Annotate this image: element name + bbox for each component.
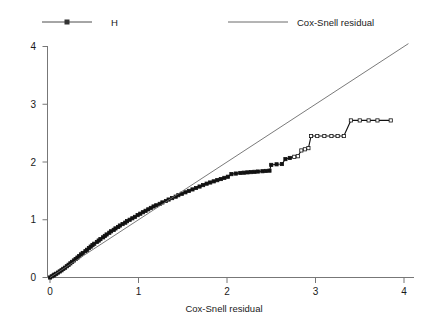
legend-label-reference: Cox-Snell residual [297, 17, 374, 28]
data-point-marker [309, 134, 312, 137]
y-tick-label-2: 2 [30, 157, 36, 168]
data-point-marker [293, 155, 296, 158]
data-line [50, 120, 391, 277]
x-tick-label-2: 2 [224, 286, 230, 297]
data-point-marker [246, 171, 249, 174]
y-axis-ticks: 0 1 2 3 4 [30, 41, 47, 283]
data-point-marker [253, 170, 256, 173]
data-point-marker [198, 185, 201, 188]
data-point-marker [270, 163, 273, 166]
data-point-marker [264, 169, 267, 172]
reference-line [50, 44, 408, 278]
data-point-marker [205, 182, 208, 185]
data-point-marker [342, 134, 345, 137]
data-point-marker [191, 188, 194, 191]
x-tick-4: 4 [401, 278, 407, 298]
data-point-marker [242, 171, 245, 174]
data-point-marker [349, 119, 352, 122]
x-tick-label-0: 0 [47, 286, 53, 297]
x-tick-label-3: 3 [313, 286, 319, 297]
data-point-marker [389, 119, 392, 122]
data-point-marker [284, 158, 287, 161]
x-tick-1: 1 [136, 278, 142, 298]
cox-snell-residual-plot: H Cox-Snell residual 0 1 2 3 4 [0, 0, 432, 325]
data-point-marker [330, 134, 333, 137]
legend-entry-h[interactable]: H [42, 17, 118, 28]
data-point-marker [219, 177, 222, 180]
data-point-marker [280, 162, 283, 165]
data-point-marker [296, 155, 299, 158]
data-point-marker [307, 147, 310, 150]
data-point-marker [239, 171, 242, 174]
data-point-marker [249, 171, 252, 174]
series-layer [48, 44, 408, 279]
data-point-marker [316, 134, 319, 137]
y-tick-3: 3 [30, 99, 47, 110]
data-point-marker [234, 172, 237, 175]
series-h [48, 119, 392, 279]
x-tick-label-1: 1 [136, 286, 142, 297]
data-point-marker [358, 119, 361, 122]
series-cox-snell-residual [50, 44, 408, 278]
data-point-marker [300, 149, 303, 152]
data-point-marker [187, 189, 190, 192]
data-point-marker [268, 169, 271, 172]
y-tick-0: 0 [30, 272, 47, 283]
x-tick-2: 2 [224, 278, 230, 298]
legend-marker-square-h [65, 20, 70, 25]
legend-entry-reference[interactable]: Cox-Snell residual [228, 17, 374, 28]
x-tick-0: 0 [47, 278, 53, 298]
data-point-marker [202, 184, 205, 187]
data-point-marker [216, 179, 219, 182]
data-point-marker [303, 148, 306, 151]
data-point-marker [230, 173, 233, 176]
y-tick-label-0: 0 [30, 272, 36, 283]
data-point-marker [323, 134, 326, 137]
data-point-marker [336, 134, 339, 137]
data-point-marker [184, 191, 187, 194]
y-tick-4: 4 [30, 41, 47, 52]
data-point-marker [367, 119, 370, 122]
data-point-marker [209, 181, 212, 184]
y-tick-1: 1 [30, 214, 47, 225]
x-axis-ticks: 0 1 2 3 4 [47, 278, 407, 298]
chart-legend: H Cox-Snell residual [42, 17, 374, 28]
data-point-marker [226, 175, 229, 178]
data-point-marker [212, 180, 215, 183]
data-point-marker [256, 170, 259, 173]
y-tick-label-1: 1 [30, 214, 36, 225]
y-tick-label-4: 4 [30, 41, 36, 52]
data-point-marker [223, 176, 226, 179]
data-point-marker [275, 163, 278, 166]
x-axis-title: Cox-Snell residual [185, 303, 262, 314]
x-tick-3: 3 [313, 278, 319, 298]
chart-canvas: H Cox-Snell residual 0 1 2 3 4 [0, 0, 432, 325]
data-point-marker [376, 119, 379, 122]
y-tick-label-3: 3 [30, 99, 36, 110]
x-tick-label-4: 4 [401, 286, 407, 297]
data-point-marker [194, 186, 197, 189]
data-point-marker [288, 156, 291, 159]
legend-label-h: H [111, 17, 118, 28]
data-point-marker [155, 204, 158, 207]
y-tick-2: 2 [30, 157, 47, 168]
data-point-marker [261, 170, 264, 173]
